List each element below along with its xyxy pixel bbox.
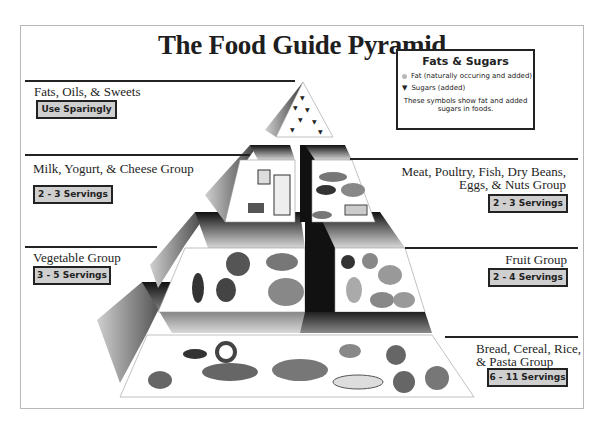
fats-rule <box>25 80 295 82</box>
legend-item-fat: Fat (naturally occuring and added) <box>402 72 533 80</box>
svg-text:▼: ▼ <box>298 116 303 123</box>
meat-name-line2: Eggs, & Nuts Group <box>400 178 566 191</box>
legend-title: Fats & Sugars <box>398 55 533 68</box>
fruit-rule <box>405 247 578 249</box>
legend-label: Sugars (added) <box>411 84 465 92</box>
vegetable-group-name: Vegetable Group <box>33 251 121 264</box>
fruit-servings-badge: 2 - 4 Servings <box>488 268 568 287</box>
meat-group-name: Meat, Poultry, Fish, Dry Beans, Eggs, & … <box>400 165 566 191</box>
svg-text:▼: ▼ <box>290 126 295 133</box>
svg-text:▼: ▼ <box>318 128 323 135</box>
legend-item-sugar: ▼ Sugars (added) <box>402 84 533 92</box>
legend-note: These symbols show fat and added sugars … <box>402 97 529 113</box>
triangle-icon: ▼ <box>402 85 407 92</box>
tier-fats <box>265 82 333 137</box>
fats-servings-badge: Use Sparingly <box>36 100 117 119</box>
bread-group-name: Bread, Cereal, Rice, & Pasta Group <box>476 342 581 368</box>
milk-servings-badge: 2 - 3 Servings <box>33 185 113 204</box>
bread-rule <box>445 336 578 338</box>
milk-group-name: Milk, Yogurt, & Cheese Group <box>33 162 194 175</box>
milk-rule <box>25 154 250 156</box>
bread-servings-badge: 6 - 11 Servings <box>487 368 568 387</box>
legend-box: Fats & Sugars Fat (naturally occuring an… <box>396 49 535 130</box>
fats-group-name: Fats, Oils, & Sweets <box>34 85 141 98</box>
legend-label: Fat (naturally occuring and added) <box>411 72 532 80</box>
vegetable-rule <box>25 246 157 248</box>
meat-servings-badge: 2 - 3 Servings <box>488 194 568 213</box>
svg-text:▼: ▼ <box>312 118 317 125</box>
meat-rule <box>350 158 578 160</box>
circle-icon <box>402 74 407 79</box>
svg-text:▼: ▼ <box>293 104 298 111</box>
svg-text:▼: ▼ <box>300 94 305 101</box>
svg-text:▼: ▼ <box>305 106 310 113</box>
bread-name-line2: & Pasta Group <box>476 355 581 368</box>
vegetable-servings-badge: 3 - 5 Servings <box>33 266 111 285</box>
fruit-group-name: Fruit Group <box>470 253 567 266</box>
